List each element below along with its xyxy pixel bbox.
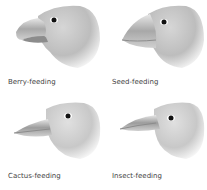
panel-cactus-feeding: Cactus-feeding (0, 95, 103, 190)
label-berry-feeding: Berry-feeding (8, 78, 56, 86)
label-seed-feeding: Seed-feeding (112, 78, 158, 86)
panel-berry-feeding: Berry-feeding (0, 0, 103, 95)
label-cactus-feeding: Cactus-feeding (8, 172, 61, 180)
label-insect-feeding: Insect-feeding (112, 172, 162, 180)
panel-insect-feeding: Insect-feeding (104, 95, 207, 190)
panel-seed-feeding: Seed-feeding (104, 0, 207, 95)
